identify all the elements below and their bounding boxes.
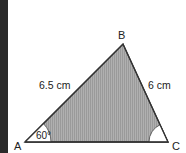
side-label-bc: 6 cm: [148, 79, 171, 91]
vertex-label-c: C: [172, 140, 180, 152]
vertex-label-a: A: [14, 140, 22, 152]
triangle-diagram: A B C 6.5 cm 6 cm 60°: [0, 0, 186, 153]
angle-label-a: 60°: [36, 130, 51, 141]
side-label-ab: 6.5 cm: [39, 79, 71, 91]
vertex-label-b: B: [118, 29, 125, 41]
